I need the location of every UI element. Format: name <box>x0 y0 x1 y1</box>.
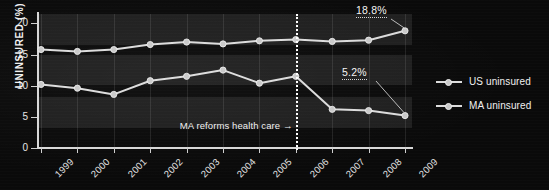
callout-us-underline <box>356 17 387 18</box>
legend-item-ma-uninsured: MA uninsured <box>436 100 531 111</box>
line-marker-icon <box>436 101 462 111</box>
data-point <box>256 38 262 44</box>
legend-item-label: US uninsured <box>469 76 531 87</box>
data-point <box>111 91 117 97</box>
data-point <box>366 37 372 43</box>
reform-marker-label: MA reforms health care → <box>180 120 293 131</box>
legend-item-us-uninsured: US uninsured <box>436 76 531 87</box>
data-point <box>184 39 190 45</box>
data-point <box>366 108 372 114</box>
callout-us-text: 18.8% <box>356 4 387 16</box>
data-point <box>402 28 408 34</box>
data-point <box>147 41 153 47</box>
data-point <box>402 112 408 118</box>
data-point <box>329 106 335 112</box>
data-point <box>220 67 226 73</box>
callout-ma-uninsured: 5.2% <box>342 66 367 80</box>
data-point <box>184 73 190 79</box>
line-marker-icon <box>436 77 462 87</box>
data-point <box>74 85 80 91</box>
data-point <box>74 48 80 54</box>
data-point <box>147 78 153 84</box>
chart-screenshot: 05101520 1999200020012002200320042005200… <box>0 0 549 190</box>
data-point <box>38 81 44 87</box>
callout-ma-underline <box>342 79 367 80</box>
reform-marker-line <box>296 14 298 150</box>
data-point <box>111 46 117 52</box>
callout-ma-text: 5.2% <box>342 66 367 78</box>
legend-item-label: MA uninsured <box>469 100 531 111</box>
data-point <box>220 41 226 47</box>
data-point <box>329 38 335 44</box>
callout-us-uninsured: 18.8% <box>356 4 387 18</box>
chart-legend: US uninsured MA uninsured <box>436 76 531 124</box>
data-point <box>38 46 44 52</box>
data-point <box>256 80 262 86</box>
